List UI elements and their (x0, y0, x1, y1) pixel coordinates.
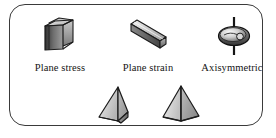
label-axisymmetric: Axisymmetric (186, 61, 276, 75)
element-type-option-axisymmetric[interactable] (196, 15, 272, 57)
tetrahedron-icon[interactable] (88, 81, 144, 129)
element-type-option-square-pyramid[interactable] (154, 81, 210, 129)
label-plane-stress: Plane stress (14, 61, 106, 75)
3d-prism-bar-icon[interactable] (124, 15, 172, 57)
solid-element-icon-row (10, 81, 262, 131)
element-type-option-plane-strain[interactable] (110, 15, 186, 57)
element-type-label-row: Plane stress Plane strain Axisymmetric (10, 61, 262, 77)
element-type-option-tetrahedron[interactable] (88, 81, 144, 129)
3d-slab-icon[interactable] (36, 15, 84, 57)
element-type-icon-row (10, 15, 262, 57)
element-type-option-plane-stress[interactable] (22, 15, 98, 57)
element-shape-selector-panel: Plane stress Plane strain Axisymmetric (9, 4, 263, 126)
revolved-disc-axis-icon[interactable] (210, 15, 258, 57)
square-pyramid-icon[interactable] (154, 81, 210, 129)
label-plane-strain: Plane strain (102, 61, 194, 75)
